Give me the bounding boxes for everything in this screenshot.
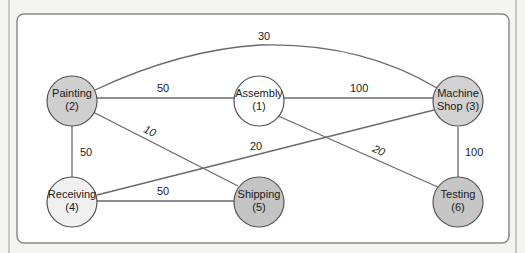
svg-text:Shipping: Shipping — [238, 188, 281, 200]
svg-text:Assembly: Assembly — [235, 87, 283, 99]
weight-assembly-machineshop: 100 — [350, 82, 368, 94]
svg-text:Painting: Painting — [52, 87, 92, 99]
weight-receiving-shipping: 50 — [157, 185, 169, 197]
node-receiving: Receiving (4) — [47, 177, 97, 227]
svg-text:(4): (4) — [65, 201, 78, 213]
svg-text:Machine: Machine — [437, 87, 479, 99]
department-graph: 30 50 100 10 20 20 50 50 100 Painting (2… — [0, 0, 525, 253]
svg-text:Receiving: Receiving — [48, 188, 96, 200]
svg-text:(2): (2) — [65, 100, 78, 112]
svg-text:(5): (5) — [252, 201, 265, 213]
weight-painting-assembly: 50 — [157, 82, 169, 94]
weight-machineshop-testing: 100 — [465, 146, 483, 158]
svg-text:Shop (3): Shop (3) — [437, 100, 479, 112]
node-painting: Painting (2) — [47, 76, 97, 126]
svg-text:Testing: Testing — [441, 188, 476, 200]
weight-painting-receiving: 50 — [80, 146, 92, 158]
node-testing: Testing (6) — [433, 177, 483, 227]
svg-text:(1): (1) — [252, 100, 265, 112]
svg-text:(6): (6) — [451, 201, 464, 213]
weight-receiving-machineshop: 20 — [250, 140, 262, 152]
node-machine-shop: Machine Shop (3) — [433, 76, 483, 126]
node-assembly: Assembly (1) — [234, 76, 284, 126]
weight-painting-machineshop: 30 — [258, 30, 270, 42]
node-shipping: Shipping (5) — [234, 177, 284, 227]
